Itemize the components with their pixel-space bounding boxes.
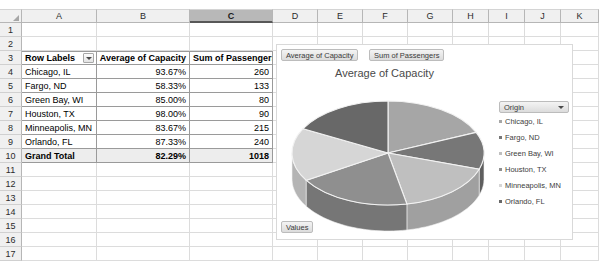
cell-H1[interactable] — [453, 23, 489, 37]
pivot-cell-passengers-0[interactable]: 260 — [190, 65, 273, 79]
column-header-g[interactable]: G — [408, 9, 453, 23]
column-header-j[interactable]: J — [525, 9, 561, 23]
pivot-cell-capacity-0[interactable]: 93.67% — [97, 65, 190, 79]
pivot-total-capacity[interactable]: 82.29% — [97, 149, 190, 163]
cell-B13[interactable] — [97, 191, 190, 205]
cell-I17[interactable] — [489, 247, 525, 261]
chevron-down-icon[interactable] — [558, 106, 564, 109]
cell-C14[interactable] — [190, 205, 273, 219]
pie-chart-graphic[interactable] — [285, 87, 495, 232]
pivot-cell-capacity-5[interactable]: 87.33% — [97, 135, 190, 149]
pivot-total-label[interactable]: Grand Total — [22, 149, 97, 163]
column-header-b[interactable]: B — [97, 9, 190, 23]
cell-B2[interactable] — [97, 37, 190, 51]
cell-F17[interactable] — [363, 247, 408, 261]
chart-field-button-0[interactable]: Average of Capacity — [281, 49, 358, 61]
cell-A1[interactable] — [22, 23, 97, 37]
row-header-12[interactable]: 12 — [0, 177, 22, 191]
cell-A14[interactable] — [22, 205, 97, 219]
cell-A17[interactable] — [22, 247, 97, 261]
cell-G1[interactable] — [408, 23, 453, 37]
cell-F1[interactable] — [363, 23, 408, 37]
cell-B17[interactable] — [97, 247, 190, 261]
pivot-cell-capacity-1[interactable]: 58.33% — [97, 79, 190, 93]
legend-field-button-origin[interactable]: Origin — [499, 101, 569, 113]
cell-C13[interactable] — [190, 191, 273, 205]
cell-E1[interactable] — [318, 23, 363, 37]
pivot-total-passengers[interactable]: 1018 — [190, 149, 273, 163]
pivot-cell-label-1[interactable]: Fargo, ND — [22, 79, 97, 93]
column-header-i[interactable]: I — [489, 9, 525, 23]
row-header-4[interactable]: 4 — [0, 65, 22, 79]
column-header-f[interactable]: F — [363, 9, 408, 23]
pivot-cell-capacity-2[interactable]: 85.00% — [97, 93, 190, 107]
cell-G17[interactable] — [408, 247, 453, 261]
row-labels-filter-icon[interactable] — [83, 53, 94, 63]
cell-B11[interactable] — [97, 163, 190, 177]
column-header-h[interactable]: H — [453, 9, 489, 23]
cell-B1[interactable] — [97, 23, 190, 37]
column-header-c[interactable]: C — [190, 9, 273, 23]
cell-E17[interactable] — [318, 247, 363, 261]
column-header-d[interactable]: D — [273, 9, 318, 23]
cell-B12[interactable] — [97, 177, 190, 191]
pivot-cell-passengers-5[interactable]: 240 — [190, 135, 273, 149]
cell-C17[interactable] — [190, 247, 273, 261]
cell-A13[interactable] — [22, 191, 97, 205]
row-header-10[interactable]: 10 — [0, 149, 22, 163]
cell-C12[interactable] — [190, 177, 273, 191]
pivot-header-avg-capacity[interactable]: Average of Capacity — [97, 51, 190, 65]
cell-C1[interactable] — [190, 23, 273, 37]
cell-A12[interactable] — [22, 177, 97, 191]
cell-I1[interactable] — [489, 23, 525, 37]
pivot-header-sum-passengers[interactable]: Sum of Passengers — [190, 51, 273, 65]
select-all-corner[interactable] — [0, 9, 22, 23]
row-header-6[interactable]: 6 — [0, 93, 22, 107]
row-header-15[interactable]: 15 — [0, 219, 22, 233]
chart-field-button-1[interactable]: Sum of Passengers — [369, 49, 444, 61]
cell-C11[interactable] — [190, 163, 273, 177]
pivot-cell-passengers-4[interactable]: 215 — [190, 121, 273, 135]
cell-A16[interactable] — [22, 233, 97, 247]
pivot-cell-label-3[interactable]: Houston, TX — [22, 107, 97, 121]
row-header-8[interactable]: 8 — [0, 121, 22, 135]
pivot-chart[interactable]: Average of CapacitySum of PassengersValu… — [276, 44, 573, 240]
row-header-11[interactable]: 11 — [0, 163, 22, 177]
row-header-16[interactable]: 16 — [0, 233, 22, 247]
column-header-a[interactable]: A — [22, 9, 97, 23]
row-header-9[interactable]: 9 — [0, 135, 22, 149]
cell-J1[interactable] — [525, 23, 561, 37]
column-header-e[interactable]: E — [318, 9, 363, 23]
row-header-3[interactable]: 3 — [0, 51, 22, 65]
cell-B16[interactable] — [97, 233, 190, 247]
cell-C15[interactable] — [190, 219, 273, 233]
pivot-cell-passengers-3[interactable]: 90 — [190, 107, 273, 121]
pivot-cell-label-2[interactable]: Green Bay, WI — [22, 93, 97, 107]
cell-K17[interactable] — [561, 247, 599, 261]
pivot-cell-label-5[interactable]: Orlando, FL — [22, 135, 97, 149]
cell-A11[interactable] — [22, 163, 97, 177]
row-header-14[interactable]: 14 — [0, 205, 22, 219]
row-header-2[interactable]: 2 — [0, 37, 22, 51]
pivot-cell-capacity-4[interactable]: 83.67% — [97, 121, 190, 135]
column-header-k[interactable]: K — [561, 9, 599, 23]
cell-H17[interactable] — [453, 247, 489, 261]
cell-K1[interactable] — [561, 23, 599, 37]
cell-D1[interactable] — [273, 23, 318, 37]
cell-C2[interactable] — [190, 37, 273, 51]
pivot-cell-passengers-2[interactable]: 80 — [190, 93, 273, 107]
row-header-13[interactable]: 13 — [0, 191, 22, 205]
pivot-cell-label-4[interactable]: Minneapolis, MN — [22, 121, 97, 135]
cell-C16[interactable] — [190, 233, 273, 247]
cell-B14[interactable] — [97, 205, 190, 219]
row-header-7[interactable]: 7 — [0, 107, 22, 121]
cell-B15[interactable] — [97, 219, 190, 233]
pivot-cell-label-0[interactable]: Chicago, IL — [22, 65, 97, 79]
row-header-5[interactable]: 5 — [0, 79, 22, 93]
cell-D17[interactable] — [273, 247, 318, 261]
cell-J17[interactable] — [525, 247, 561, 261]
pivot-cell-passengers-1[interactable]: 133 — [190, 79, 273, 93]
cell-A2[interactable] — [22, 37, 97, 51]
row-header-1[interactable]: 1 — [0, 23, 22, 37]
row-header-17[interactable]: 17 — [0, 247, 22, 261]
